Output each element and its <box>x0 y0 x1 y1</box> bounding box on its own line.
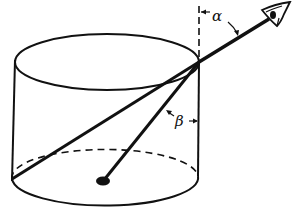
beta-arrowhead-right <box>193 119 198 124</box>
beta-label: β <box>174 112 184 130</box>
cylinder-bottom-back <box>12 149 198 179</box>
line-of-sight <box>199 19 269 62</box>
alpha-label: α <box>212 7 222 25</box>
alpha-arrowhead-left <box>201 10 206 15</box>
object-dot <box>96 177 110 186</box>
cylinder-right-wall <box>198 62 199 176</box>
refraction-diagram: α β <box>0 0 305 211</box>
incident-ray-extension <box>12 62 199 179</box>
cylinder-left-wall <box>12 60 15 181</box>
cylinder-top-ellipse <box>15 34 199 90</box>
alpha-arrowhead-right <box>234 30 239 36</box>
